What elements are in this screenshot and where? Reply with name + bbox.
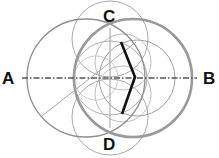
label-a: A <box>2 69 14 88</box>
geometric-construction-diagram: A B C D <box>0 0 219 158</box>
label-b: B <box>203 69 215 88</box>
label-d: D <box>103 135 115 154</box>
diagonal-line <box>42 42 136 116</box>
label-c: C <box>103 7 115 26</box>
